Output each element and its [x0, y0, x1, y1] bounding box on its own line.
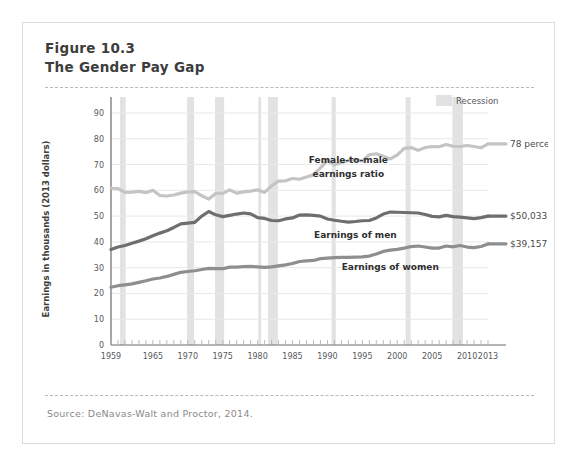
x-tick-label: 1980: [247, 352, 267, 361]
women-series-label: Earnings of women: [342, 262, 439, 272]
y-tick-label: 80: [94, 135, 104, 144]
divider-bottom: [45, 395, 534, 396]
recession-band: [452, 97, 462, 345]
ratio-series-label-line1: Female-to-male: [309, 155, 388, 165]
figure-number: Figure 10.3: [45, 39, 485, 58]
x-tick-label: 1990: [317, 352, 337, 361]
x-tick-label: 1975: [213, 352, 233, 361]
recession-band: [215, 97, 224, 345]
chart-annotations: 78 percent$50,033$39,157Female-to-maleea…: [309, 139, 548, 272]
end-value-label: $50,033: [510, 211, 547, 221]
recession-bands: [120, 97, 463, 345]
y-tick-label: 50: [94, 212, 104, 221]
y-tick-label: 20: [94, 289, 104, 298]
x-tick-label: 1959: [101, 352, 121, 361]
series-line: [111, 211, 488, 249]
chart-area: 0102030405060708090Earnings in thousands…: [33, 95, 548, 391]
x-tick-label: 1985: [282, 352, 302, 361]
recession-legend-label: Recession: [456, 96, 498, 106]
x-tick-label: 2013: [478, 352, 498, 361]
x-axis: 1959196519701975198019851990199520002005…: [101, 340, 506, 361]
y-tick-label: 0: [99, 341, 104, 350]
y-tick-label: 60: [94, 186, 104, 195]
y-tick-label: 90: [94, 109, 104, 118]
x-tick-label: 2010: [457, 352, 477, 361]
x-tick-label: 2005: [422, 352, 442, 361]
x-tick-label: 1965: [143, 352, 163, 361]
figure-header: Figure 10.3 The Gender Pay Gap: [45, 39, 485, 77]
end-value-label: 78 percent: [510, 139, 548, 149]
chart-legend: Recession: [436, 95, 498, 106]
y-axis: 0102030405060708090Earnings in thousands…: [41, 97, 111, 350]
recession-band: [258, 97, 261, 345]
ratio-series-label-line2: earnings ratio: [313, 169, 385, 179]
recession-legend-swatch: [436, 95, 452, 106]
x-tick-label: 2000: [387, 352, 407, 361]
recession-band: [406, 97, 411, 345]
x-tick-label: 1995: [352, 352, 372, 361]
gender-pay-gap-chart: 0102030405060708090Earnings in thousands…: [33, 95, 548, 391]
y-tick-label: 10: [94, 315, 104, 324]
figure-card: Figure 10.3 The Gender Pay Gap Source: D…: [22, 22, 555, 444]
y-tick-label: 40: [94, 238, 104, 247]
men-series-label: Earnings of men: [314, 230, 397, 240]
y-tick-label: 70: [94, 161, 104, 170]
recession-band: [120, 97, 126, 345]
end-value-label: $39,157: [510, 239, 547, 249]
source-note: Source: DeNavas-Walt and Proctor, 2014.: [47, 408, 253, 419]
y-tick-label: 30: [94, 264, 104, 273]
divider-top: [45, 87, 534, 88]
x-tick-label: 1970: [178, 352, 198, 361]
figure-title: The Gender Pay Gap: [45, 58, 485, 77]
y-axis-title: Earnings in thousands (2013 dollars): [41, 140, 51, 317]
